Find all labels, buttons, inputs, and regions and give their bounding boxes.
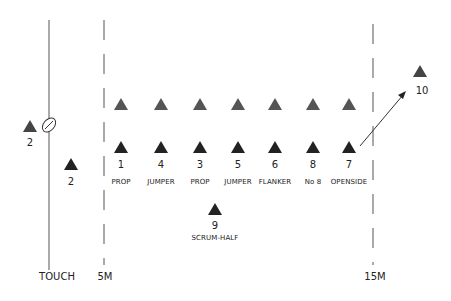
- player-number: 4: [158, 159, 164, 170]
- pass-arrow-icon: [360, 91, 406, 146]
- fly-half-triangle-icon: [413, 65, 427, 77]
- fly-half-number: 10: [416, 85, 429, 96]
- player-number: 7: [346, 159, 352, 170]
- player-role: FLANKER: [259, 178, 292, 186]
- player-number: 5: [235, 159, 241, 170]
- scrum-half-role: SCRUM-HALF: [192, 234, 239, 242]
- opposition-row: [114, 98, 356, 110]
- player-role: PROP: [111, 178, 130, 186]
- thrower-number: 2: [27, 137, 33, 148]
- player-role: OPENSIDE: [331, 178, 368, 186]
- diagram-graphics: [0, 0, 451, 301]
- player-number: 3: [197, 159, 203, 170]
- rugby-ball-icon: [40, 115, 59, 134]
- scrum-half-number: 9: [212, 220, 218, 231]
- five-metre-label: 5M: [98, 271, 113, 282]
- player-role: JUMPER: [147, 178, 174, 186]
- scrum-half-triangle-icon: [208, 203, 222, 215]
- lineout-row: [114, 141, 356, 153]
- hooker-triangle-icon: [64, 158, 78, 170]
- hooker-number: 2: [68, 176, 74, 187]
- touch-label: TOUCH: [39, 271, 75, 282]
- player-role: JUMPER: [224, 178, 251, 186]
- player-number: 1: [118, 159, 124, 170]
- player-role: PROP: [190, 178, 209, 186]
- lineout-diagram: 2 2 1 PROP 4 JUMPER 3 PROP 5 JUMPER 6 FL…: [0, 0, 451, 301]
- player-number: 8: [310, 159, 316, 170]
- fifteen-metre-label: 15M: [364, 271, 385, 282]
- thrower-triangle-icon: [23, 120, 37, 132]
- player-role: No 8: [305, 178, 322, 186]
- player-number: 6: [272, 159, 278, 170]
